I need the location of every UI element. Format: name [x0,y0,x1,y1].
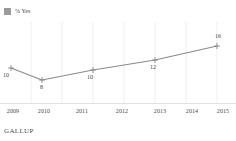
gallup-line-chart: % Yes [0,0,236,141]
gridlines [31,22,217,104]
x-tick-2010: 2010 [38,107,50,115]
plot-area: 10 8 10 12 16 [0,22,236,104]
x-axis-line [0,103,236,104]
x-tick-2011: 2011 [76,107,88,115]
x-axis-tick-labels: 2009 2010 2011 2012 2013 2014 2015 [0,107,236,117]
data-point-2011 [90,67,96,73]
x-tick-2015: 2015 [217,107,229,115]
x-tick-2013: 2013 [154,107,166,115]
legend-label-percent-yes: % Yes [15,8,31,15]
data-point-2015 [214,43,220,49]
value-label-2010: 8 [40,84,43,91]
data-point-2010 [39,77,45,83]
value-label-2011: 10 [87,74,93,81]
value-label-2015: 16 [215,33,221,40]
x-tick-2012: 2012 [116,107,128,115]
value-label-2009: 10 [3,72,9,79]
series-markers [8,43,220,83]
value-label-2013: 12 [150,64,156,71]
x-tick-2009: 2009 [7,107,19,115]
data-point-2009 [8,65,14,71]
data-point-2013 [152,57,158,63]
gallup-brand-footer: GALLUP [4,127,34,136]
x-tick-2014: 2014 [186,107,198,115]
chart-legend: % Yes [4,6,31,16]
legend-swatch-icon [4,8,11,15]
plot-svg [0,22,236,104]
